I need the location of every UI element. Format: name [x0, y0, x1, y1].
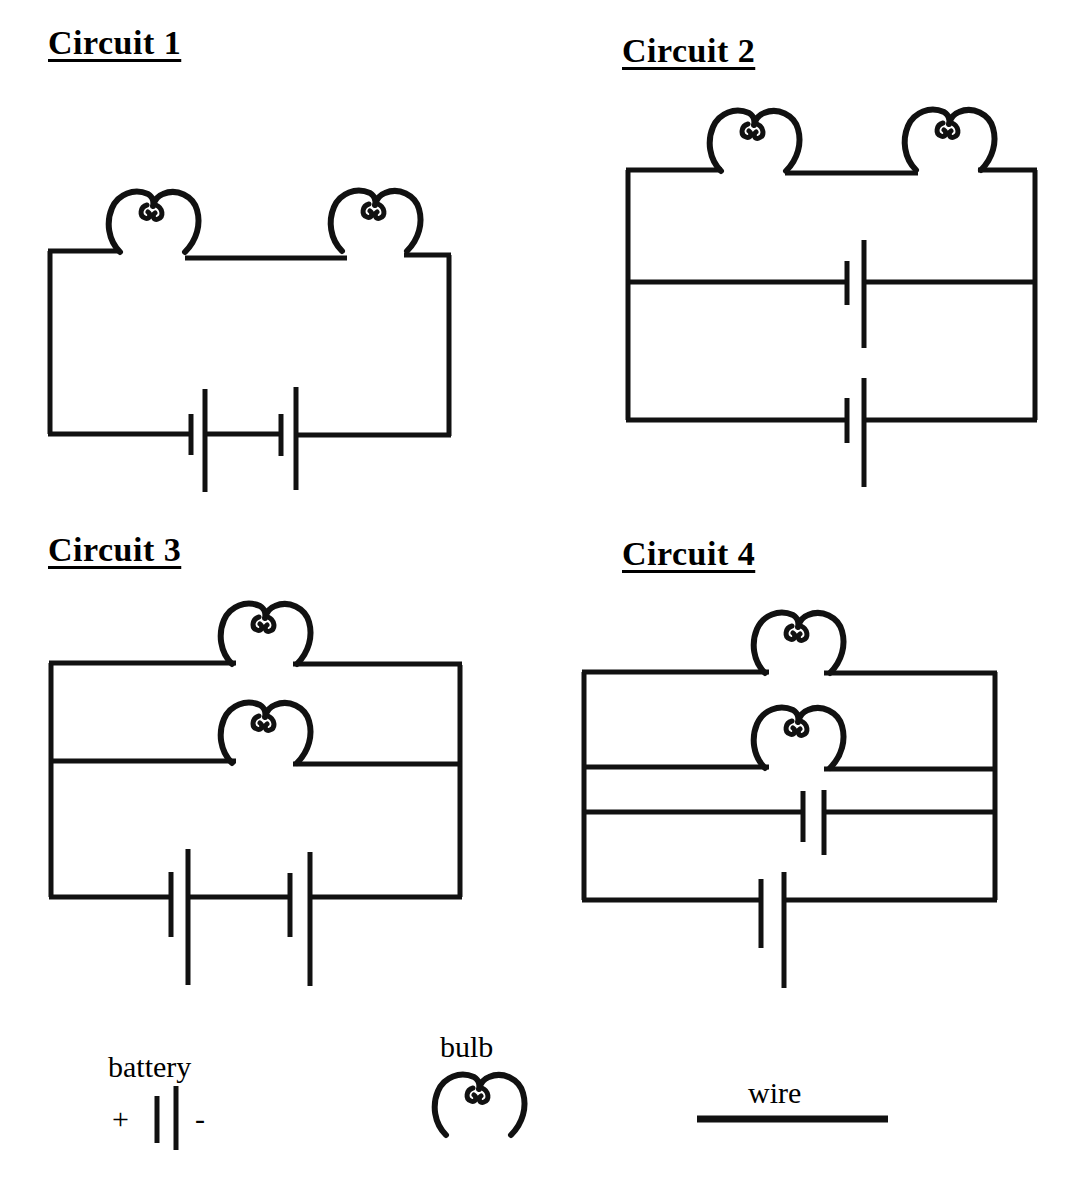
circuit-4-bulb-2	[754, 708, 844, 768]
circuit-2-diagram	[626, 110, 1037, 487]
circuit-3-diagram	[49, 604, 462, 986]
circuit-4-diagram	[582, 613, 997, 988]
circuit-1-bulb-2	[331, 191, 421, 251]
circuit-3-battery-cell-1	[171, 849, 188, 985]
circuit-3-bulb-2	[221, 703, 311, 763]
circuit-2-bulb-1	[710, 111, 800, 171]
circuit-2-battery-cell-1	[847, 240, 864, 348]
circuit-1-bulb-1	[109, 192, 199, 252]
circuit-drawings-canvas	[0, 0, 1073, 1195]
circuit-4-bulb-1	[754, 613, 844, 673]
legend	[157, 1075, 888, 1150]
circuit-4-battery-cell-2	[761, 872, 784, 988]
circuit-1-battery-cell-2	[281, 387, 296, 490]
circuit-2-bulb-2	[905, 110, 995, 170]
circuit-3-battery-cell-2	[290, 852, 310, 986]
circuit-3-bulb-1	[221, 604, 311, 664]
circuit-worksheet: Circuit 1 Circuit 2 Circuit 3 Circuit 4 …	[0, 0, 1073, 1195]
circuit-4-battery-cell-1	[803, 790, 824, 855]
circuit-1-diagram	[48, 191, 451, 492]
circuit-1-battery-cell-1	[191, 389, 205, 492]
circuit-2-battery-cell-2	[847, 378, 864, 487]
legend-battery-symbol	[157, 1086, 176, 1150]
legend-bulb-symbol	[435, 1075, 525, 1135]
